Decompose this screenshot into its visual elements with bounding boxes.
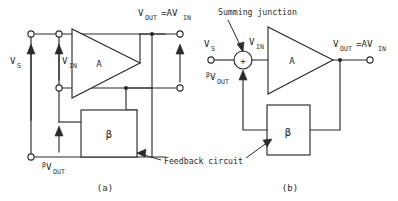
figure-root: A β: [0, 0, 398, 201]
panel-b-output-junction-dot: [338, 58, 342, 62]
panel-b-amplifier-triangle: [268, 27, 333, 94]
panel-a-vs-arrow: [27, 44, 35, 120]
panel-b-output-terminal[interactable]: [367, 57, 373, 63]
panel-a-output-sublabel: OUT: [145, 14, 157, 22]
panel-b-input-label: V: [249, 36, 255, 47]
panel-a-input-terminal-bottom[interactable]: [56, 85, 62, 91]
panel-a-beta-vout-arrow: [55, 126, 63, 152]
panel-b-source-label: V: [204, 38, 210, 49]
panel-b-source-terminal[interactable]: [208, 57, 214, 63]
panel-b-beta-block-label: β: [285, 126, 291, 138]
panel-b-output-label: V: [333, 38, 339, 49]
panel-b-summing-junction-annotation: Summing junction: [218, 7, 297, 17]
circuit-diagram-canvas: A β: [0, 0, 398, 201]
panel-b-output-sublabel: OUT: [340, 45, 352, 53]
panel-b-caption: (b): [282, 183, 298, 193]
panel-a-feedback-voltage-sublabel: OUT: [53, 168, 65, 176]
panel-a-feedback-voltage-label: V: [46, 161, 52, 172]
panel-b-summing-junction-sign: +: [240, 56, 246, 66]
panel-a-beta-block-label: β: [106, 128, 112, 140]
panel-a-output-terminal-top[interactable]: [177, 31, 183, 37]
panel-a-feedback-junction-dot: [124, 86, 128, 90]
panel-a-output-equation-sublabel: IN: [183, 14, 191, 22]
panel-b-feedback-arrow: [239, 70, 247, 80]
panel-a-input-terminal-top[interactable]: [56, 31, 62, 37]
panel-a-source-label: V: [10, 55, 16, 66]
panel-a-amplifier-label: A: [96, 58, 102, 69]
panel-a-output-equation: =AV: [161, 7, 178, 18]
panel-b-feedback-return-wire: [243, 78, 267, 130]
panel-a-feedback-annotation: [137, 149, 161, 160]
panel-b-feedback-voltage-sublabel: OUT: [217, 78, 229, 86]
panel-a-source-terminal[interactable]: [28, 31, 34, 37]
panel-a-source-sublabel: S: [17, 62, 21, 70]
panel-b-amplifier-label: A: [289, 55, 295, 66]
panel-a-output-terminal-bottom[interactable]: [177, 85, 183, 91]
panel-a-caption: (a): [97, 183, 113, 193]
panel-b-output-tap-wire: [310, 60, 340, 130]
panel-b-source-sublabel: S: [211, 45, 215, 53]
panel-a-output-junction-dot: [150, 32, 154, 36]
panel-a-ground-terminal[interactable]: [28, 154, 34, 160]
panel-a-input-sublabel: IN: [69, 62, 77, 70]
panel-b-feedback-voltage-label: V: [210, 71, 216, 82]
panel-a-group: A β: [10, 7, 243, 193]
panel-b-summing-junction-leader: [228, 20, 244, 52]
panel-a-feedback-annotation-label: Feedback circuit: [164, 156, 243, 166]
panel-a-input-label: V: [62, 55, 68, 66]
panel-b-output-equation-sublabel: IN: [378, 45, 386, 53]
panel-b-input-sublabel: IN: [256, 43, 264, 51]
panel-a-vout-arrow: [176, 44, 184, 82]
panel-a-beta-output-wire: [126, 88, 137, 110]
panel-b-output-equation: =AV: [356, 38, 373, 49]
panel-a-output-label: V: [138, 7, 144, 18]
